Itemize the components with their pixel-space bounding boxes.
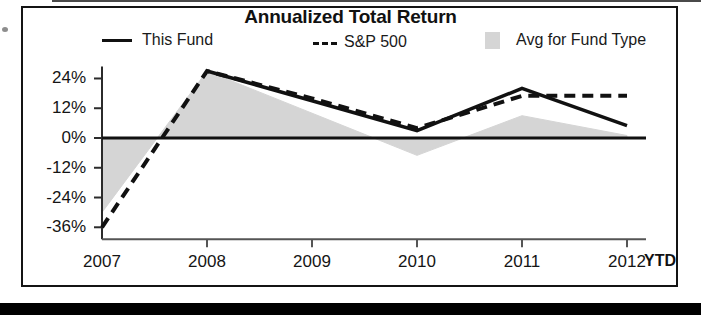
- legend-label-avg-for-fund-type: Avg for Fund Type: [516, 31, 646, 49]
- x-axis-ytd-note: YTD: [644, 252, 676, 270]
- y-axis-label: 24%: [14, 68, 86, 88]
- x-axis-label: 2008: [172, 252, 242, 272]
- chart-legend: This Fund S&P 500 Avg for Fund Type: [95, 31, 675, 53]
- y-axis-label: -12%: [14, 158, 86, 178]
- y-axis-label: -36%: [14, 217, 86, 237]
- y-axis-label: -24%: [14, 188, 86, 208]
- solid-line-swatch-icon: [102, 39, 132, 42]
- legend-label-this-fund: This Fund: [142, 31, 213, 49]
- x-axis-label: 2011: [487, 252, 557, 272]
- page-bottom-bar: [0, 303, 701, 315]
- x-axis-label: 2010: [382, 252, 452, 272]
- chart-title: Annualized Total Return: [0, 6, 701, 28]
- y-axis-label: 0%: [14, 128, 86, 148]
- dashed-line-swatch-icon: [313, 42, 337, 45]
- legend-label-sp-500: S&P 500: [344, 33, 407, 51]
- x-axis-label: 2007: [67, 252, 137, 272]
- area-fill-swatch-icon: [485, 32, 500, 49]
- legend-item-this-fund: This Fund: [102, 31, 213, 49]
- scanned-page: Annualized Total Return This Fund S&P 50…: [0, 0, 701, 315]
- legend-item-avg-for-fund-type: Avg for Fund Type: [485, 31, 646, 49]
- y-axis-label: 12%: [14, 98, 86, 118]
- page-top-rule: [52, 0, 701, 2]
- x-axis-label: 2009: [277, 252, 347, 272]
- legend-item-sp-500: S&P 500: [313, 33, 407, 51]
